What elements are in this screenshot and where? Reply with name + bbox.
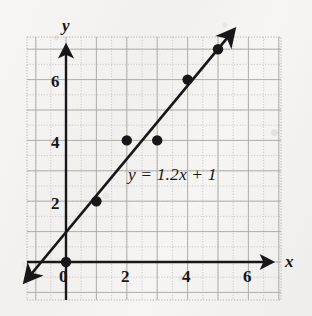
- data-point: [91, 196, 101, 206]
- x-tick-label-2: 2: [121, 268, 130, 285]
- data-point: [61, 257, 71, 267]
- graph-figure: [0, 0, 312, 316]
- y-tick-label-2: 2: [51, 195, 60, 212]
- x-axis-label: x: [285, 253, 294, 270]
- data-point: [122, 135, 132, 145]
- data-point: [152, 135, 162, 145]
- y-tick-label-6: 6: [51, 73, 60, 90]
- data-point: [182, 74, 192, 84]
- x-tick-label-0: 0: [59, 268, 68, 285]
- equation-annotation: y = 1.2x + 1: [128, 166, 216, 184]
- y-axis-label: y: [62, 17, 70, 34]
- x-tick-label-4: 4: [182, 268, 191, 285]
- y-tick-label-4: 4: [51, 134, 60, 151]
- x-tick-label-6: 6: [243, 268, 252, 285]
- data-point: [213, 44, 223, 54]
- regression-line: [26, 30, 234, 281]
